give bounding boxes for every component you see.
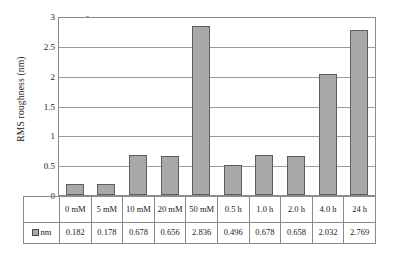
bar [319, 74, 337, 195]
bar-slot [343, 18, 375, 195]
table-cell-value: 2.836 [186, 223, 218, 244]
table-cell-category: 10 mM [123, 197, 155, 223]
y-tick-label: 3 [51, 12, 56, 22]
table-cell-category: 5 mM [91, 197, 123, 223]
bar-slot [154, 18, 186, 195]
table-cell-value: 0.658 [281, 223, 313, 244]
bar-slot [185, 18, 217, 195]
bar [287, 156, 305, 195]
table-cell-value: 0.178 [91, 223, 123, 244]
y-tick-label: 2.5 [44, 42, 55, 52]
table-cell-category: 50 mM [186, 197, 218, 223]
legend-swatch-icon [32, 229, 39, 236]
table-cell-value: 2.769 [344, 223, 376, 244]
bar [255, 155, 273, 195]
bar [192, 26, 210, 195]
y-axis-label-wrapper: RMS roughness (nm) [10, 0, 32, 197]
table-cell-value: 0.496 [217, 223, 249, 244]
table-cell-category: 0 mM [60, 197, 92, 223]
bar [66, 184, 84, 195]
bar [129, 155, 147, 195]
y-tick-label: 2 [51, 72, 56, 82]
table-cell-value: 0.678 [249, 223, 281, 244]
table-cell-category: 20 mM [154, 197, 186, 223]
table-row-values: nm0.1820.1780.6780.6562.8360.4960.6780.6… [24, 223, 376, 244]
table-cell-value: 0.656 [154, 223, 186, 244]
y-axis-label: RMS roughness (nm) [16, 56, 26, 141]
bar-slot [59, 18, 91, 195]
bar [350, 30, 368, 195]
legend-cell: nm [24, 223, 60, 244]
data-table: 0 mM5 mM10 mM20 mM50 mM0.5 h1.0 h2.0 h4.… [23, 196, 376, 244]
legend-label: nm [41, 228, 52, 238]
bar [161, 156, 179, 195]
table-cell-value: 2.032 [312, 223, 344, 244]
bar-slot [249, 18, 281, 195]
bar-slot [122, 18, 154, 195]
bar-slot [312, 18, 344, 195]
bar [97, 184, 115, 195]
y-tick-label: 1 [51, 131, 56, 141]
table-cell-value: 0.678 [123, 223, 155, 244]
table-cell-category: 2.0 h [281, 197, 313, 223]
table-cell-category: 0.5 h [217, 197, 249, 223]
plot-area [58, 17, 376, 196]
y-tick-label: 1.5 [44, 102, 55, 112]
bar [224, 165, 242, 195]
table-cell-category: 24 h [344, 197, 376, 223]
bar-slot [217, 18, 249, 195]
table-cell-category: 1.0 h [249, 197, 281, 223]
bar-group [59, 18, 375, 195]
table-corner-blank [24, 197, 60, 223]
bar-slot [280, 18, 312, 195]
table-cell-value: 0.182 [60, 223, 92, 244]
table-row-categories: 0 mM5 mM10 mM20 mM50 mM0.5 h1.0 h2.0 h4.… [24, 197, 376, 223]
y-axis-tick-labels: 00.511.522.53 [30, 17, 55, 196]
bar-slot [91, 18, 123, 195]
table-cell-category: 4.0 h [312, 197, 344, 223]
y-tick-label: 0.5 [44, 161, 55, 171]
figure: RMS roughness (nm) 00.511.522.53 0 mM5 m… [0, 0, 394, 256]
